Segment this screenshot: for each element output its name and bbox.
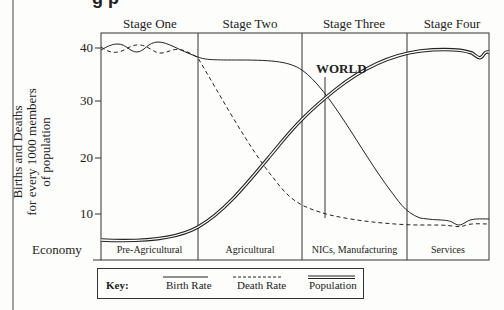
y-tick-label: 20: [63, 150, 93, 166]
economy-label: Economy: [32, 242, 82, 258]
legend-birth-rate: Birth Rate: [166, 279, 212, 291]
y-tick-label: 40: [63, 40, 93, 56]
y-tick-label: 30: [63, 93, 93, 109]
y-axis-label-line: Births and Deaths: [11, 62, 25, 242]
legend-title: Key:: [106, 279, 129, 291]
stage-three-label: Stage Three: [302, 16, 406, 32]
world-annotation: WORLD: [316, 61, 367, 77]
legend-population: Population: [309, 279, 357, 291]
birth-rate-line: [101, 42, 489, 225]
chart-frame: [101, 33, 489, 260]
stage-two-label: Stage Two: [198, 16, 302, 32]
legend-death-rate: Death Rate: [237, 279, 286, 291]
economy-pre-agricultural: Pre-Agricultural: [101, 244, 198, 255]
stage-four-label: Stage Four: [400, 16, 504, 32]
legend-box: Key: Birth Rate Death Rate Population: [97, 268, 364, 299]
economy-manufacturing: NICs, Manufacturing: [302, 244, 407, 255]
death-rate-line: [101, 45, 489, 227]
stage-one-label: Stage One: [98, 16, 202, 32]
y-axis-label-line: of population: [39, 62, 53, 242]
economy-services: Services: [407, 244, 489, 255]
y-axis-label: Births and Deaths for every 1000 members…: [11, 62, 53, 242]
y-axis-label-line: for every 1000 members: [25, 62, 39, 242]
economy-agricultural: Agricultural: [198, 244, 302, 255]
population-line: [101, 50, 489, 241]
y-tick-label: 10: [63, 206, 93, 222]
